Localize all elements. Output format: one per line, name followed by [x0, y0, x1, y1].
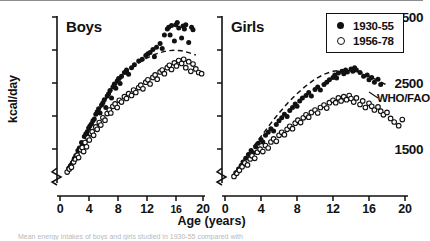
data-point — [333, 100, 338, 105]
data-point — [162, 71, 167, 76]
data-point — [376, 105, 381, 110]
data-point — [385, 110, 390, 115]
data-point — [95, 127, 100, 132]
data-point — [261, 149, 266, 154]
data-point — [141, 87, 146, 92]
x-axis-title: Age (years) — [0, 214, 423, 228]
data-point — [271, 129, 276, 134]
data-point — [189, 69, 194, 74]
data-point — [285, 114, 290, 119]
data-point — [169, 23, 174, 28]
panel-title-boys: Boys — [66, 18, 102, 35]
legend-label-1956-78: 1956-78 — [353, 35, 394, 47]
data-point — [191, 62, 196, 67]
data-point — [168, 33, 173, 38]
data-point — [306, 115, 311, 120]
data-point — [360, 99, 365, 104]
data-point — [363, 105, 368, 110]
legend-entry-1956-78: 1956-78 — [334, 33, 394, 48]
data-point — [324, 106, 329, 111]
data-point — [124, 96, 129, 101]
data-point — [174, 64, 179, 69]
panel-title-girls: Girls — [231, 18, 264, 35]
data-point — [172, 39, 177, 44]
data-point — [118, 81, 123, 86]
data-point — [354, 96, 359, 101]
open-circle-icon — [334, 37, 347, 45]
data-point — [76, 155, 81, 160]
data-point — [155, 77, 160, 82]
data-point — [91, 133, 96, 138]
data-point — [245, 163, 250, 168]
data-point — [252, 156, 257, 161]
data-point — [69, 165, 74, 170]
data-point — [295, 104, 300, 109]
data-point — [175, 20, 180, 25]
data-point — [103, 118, 108, 123]
data-point — [154, 45, 159, 50]
legend-entry-1930-55: 1930-55 — [334, 18, 394, 33]
data-point — [169, 67, 174, 72]
data-point — [266, 146, 271, 151]
data-point — [184, 65, 189, 70]
data-point — [183, 22, 188, 27]
data-point — [274, 139, 279, 144]
data-point — [81, 149, 86, 154]
data-point — [115, 105, 120, 110]
data-point — [199, 71, 204, 76]
data-point — [400, 117, 405, 122]
figure-caption: Mean energy intakes of boys and girls st… — [18, 233, 418, 240]
legend-label-1930-55: 1930-55 — [353, 20, 394, 32]
data-point — [282, 132, 287, 137]
data-point — [396, 123, 401, 128]
data-point — [129, 93, 134, 98]
data-point — [134, 90, 139, 95]
data-point — [318, 88, 323, 93]
data-point — [84, 145, 89, 150]
filled-circle-icon — [334, 22, 347, 29]
legend: 1930-55 1956-78 — [326, 13, 404, 53]
data-point — [119, 100, 124, 105]
data-point — [290, 126, 295, 131]
data-point — [181, 57, 186, 62]
data-point — [160, 46, 165, 51]
data-point — [109, 111, 114, 116]
data-point — [309, 94, 314, 99]
data-point — [186, 40, 191, 45]
data-point — [191, 27, 196, 32]
who-fao-annotation: WHO/FAO — [377, 92, 430, 104]
data-point — [162, 33, 167, 38]
data-point — [182, 27, 187, 32]
data-point — [392, 120, 397, 125]
data-point — [179, 36, 184, 41]
data-point — [315, 111, 320, 116]
boys-axes — [52, 16, 205, 201]
data-point — [87, 138, 92, 143]
data-point — [148, 82, 153, 87]
data-point — [298, 120, 303, 125]
data-point — [158, 41, 163, 46]
data-point — [334, 76, 339, 81]
data-point — [109, 95, 114, 100]
data-point — [176, 25, 181, 30]
data-point — [99, 123, 104, 128]
